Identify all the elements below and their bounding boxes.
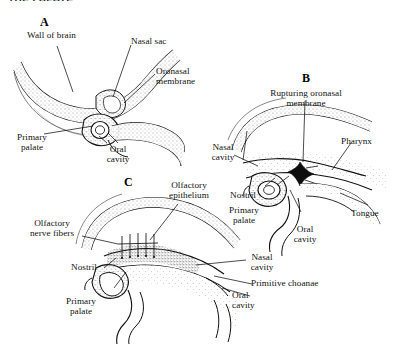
label-c-oral-cavity: Oral cavity: [232, 290, 255, 311]
label-c-nostril: Nostril: [71, 262, 97, 272]
panel-letter-a: A: [40, 16, 49, 28]
label-a-primary-palate: Primary palate: [4, 132, 60, 153]
figure-root: THE PALATE: [0, 0, 393, 344]
label-b-primary-palate: Primary palate: [215, 205, 273, 226]
label-b-oral-cavity: Oral cavity: [285, 224, 325, 245]
label-tongue: Tongue: [351, 208, 379, 218]
label-b-nasal-cavity: Nasal cavity: [203, 142, 243, 163]
label-nasal-sac: Nasal sac: [131, 36, 166, 46]
label-b-nostril: Nostril: [230, 190, 256, 200]
label-olfactory-nerve-fibers: Olfactory nerve fibers: [16, 218, 88, 239]
panel-letter-b: B: [302, 72, 310, 84]
label-c-nasal-cavity: Nasal cavity: [242, 252, 282, 273]
label-wall-of-brain: Wall of brain: [27, 30, 76, 40]
panel-letter-c: C: [124, 176, 133, 188]
label-oronasal-membrane: Oronasal membrane: [156, 66, 195, 87]
label-rupturing-oronasal-membrane: Rupturing oronasal membrane: [231, 88, 381, 109]
label-olfactory-epithelium: Olfactory epithelium: [155, 180, 223, 201]
label-a-oral-cavity: Oral cavity: [98, 144, 138, 165]
label-pharynx: Pharynx: [341, 136, 372, 146]
label-primitive-choanae: Primitive choanae: [251, 278, 318, 288]
label-c-primary-palate: Primary palate: [53, 296, 109, 317]
anatomical-line-art: [0, 0, 393, 344]
